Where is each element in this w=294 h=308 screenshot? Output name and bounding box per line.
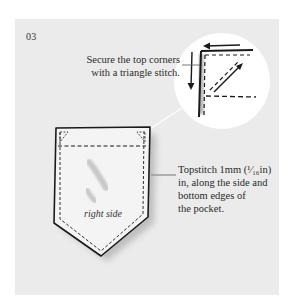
- callout-line: bottom edges of: [178, 189, 278, 202]
- detail-circle: [148, 33, 270, 130]
- callout-line: Secure the top corners: [62, 53, 180, 66]
- callout-line: in, along the side and: [178, 176, 278, 189]
- sewing-illustration: [0, 0, 294, 308]
- callout-line: the pocket.: [178, 202, 278, 215]
- pocket-label: right side: [84, 208, 122, 219]
- callout-line: Topstitch 1mm (¹⁄₁₆in): [178, 163, 278, 176]
- callout-topstitch: Topstitch 1mm (¹⁄₁₆in) in, along the sid…: [178, 163, 278, 215]
- callout-line: with a triangle stitch.: [62, 66, 180, 79]
- callout-top-corners: Secure the top corners with a triangle s…: [62, 53, 180, 79]
- pocket-drawing: [54, 127, 156, 261]
